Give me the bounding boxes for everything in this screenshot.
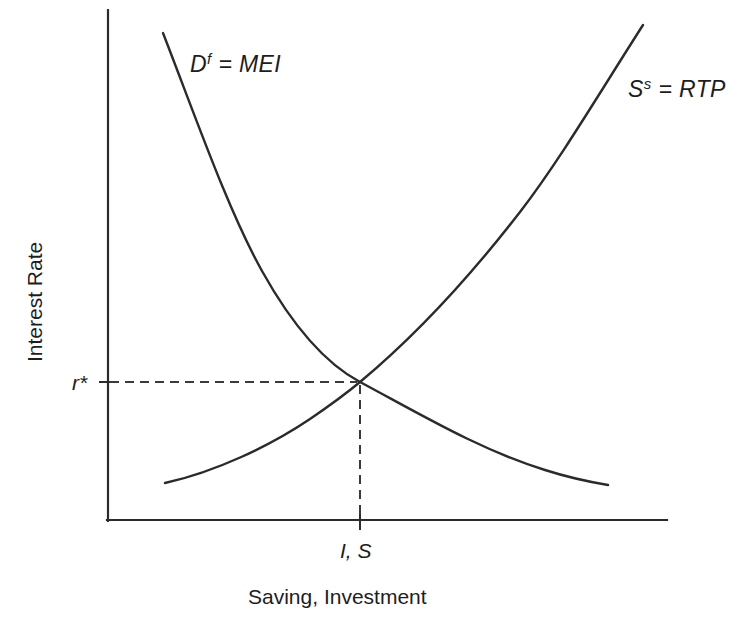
supply-label-superscript: s [644, 75, 652, 92]
supply-curve [165, 25, 643, 483]
x-axis-title: Saving, Investment [248, 585, 427, 608]
supply-curve-label: Ss = RTP [628, 75, 726, 102]
demand-label-main: D [190, 51, 207, 77]
y-axis-tick-label: r* [72, 371, 88, 394]
demand-curve-label: Df = MEI [190, 50, 281, 77]
supply-label-main: S [628, 76, 644, 102]
demand-curve [163, 33, 608, 485]
x-axis-tick-label: I, S [340, 539, 372, 562]
demand-label-rest: = MEI [212, 51, 282, 77]
supply-label-rest: = RTP [652, 76, 726, 102]
supply-demand-loanable-funds-figure: Df = MEI Ss = RTP r* I, S Interest Rate … [0, 0, 753, 620]
y-axis-title: Interest Rate [23, 242, 46, 362]
